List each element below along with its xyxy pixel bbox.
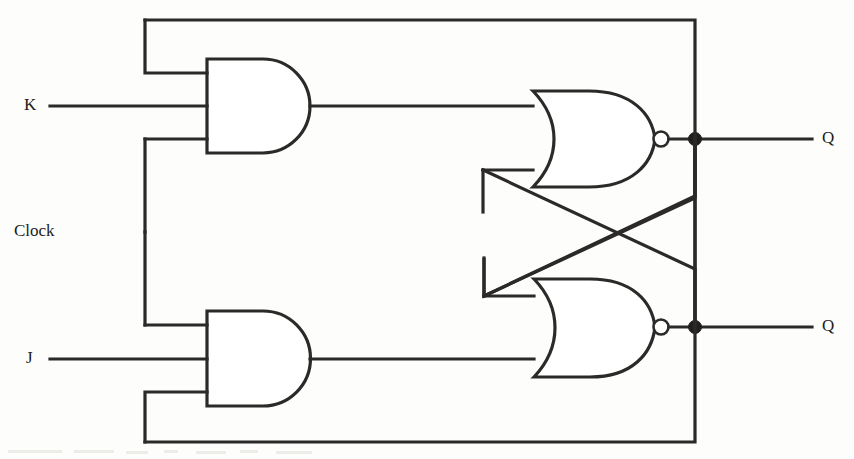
label-k-input: K (24, 96, 36, 113)
circuit-svg (0, 0, 854, 459)
nor-gate-bottom-bubble (654, 320, 669, 335)
wire-and-top-input1 (145, 20, 207, 73)
nor-gate-bottom-body (534, 279, 655, 377)
label-j-input: J (26, 349, 33, 366)
and-gate-bottom-body (207, 311, 311, 406)
jk-flip-flop-diagram: K Clock J Q Q (0, 0, 854, 459)
label-q-output: Q (822, 129, 834, 146)
and-gate-top-body (207, 59, 310, 153)
scan-smudge (8, 450, 312, 454)
nor-gate-top-body (533, 91, 655, 187)
wire-and-bottom-input3 (145, 392, 207, 442)
label-q-not-output: Q (822, 317, 834, 334)
nor-gate-top-bubble (654, 132, 669, 147)
label-clock-input: Clock (14, 222, 55, 239)
